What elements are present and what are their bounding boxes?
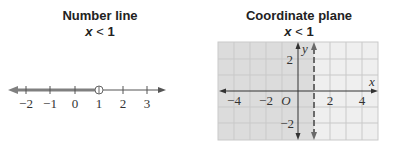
x-tick-label: −4 [227,93,241,108]
number-line: −2 −1 0 1 2 3 [8,86,166,111]
x-axis-label: x [368,74,375,89]
y-axis-label: y [300,41,308,56]
tick-label: −1 [43,96,57,111]
x-tick-label: 2 [327,93,334,108]
coordinate-plane: y x O −4 −2 2 4 2 −2 [218,41,378,140]
tick-label: 3 [144,96,151,111]
tick-label: 0 [72,96,79,111]
x-tick-label: 4 [359,93,366,108]
tick-label: 2 [120,96,127,111]
arrow-left-icon [8,86,18,94]
tick-label: −2 [19,96,33,111]
diagram-canvas: −2 −1 0 1 2 3 [0,0,398,146]
arrow-right-icon [158,87,166,93]
tick-label: 1 [96,96,103,111]
x-tick-label: −2 [259,93,273,108]
origin-label: O [281,93,291,108]
y-tick-label: 2 [287,52,294,67]
y-tick-label: −2 [280,116,294,131]
